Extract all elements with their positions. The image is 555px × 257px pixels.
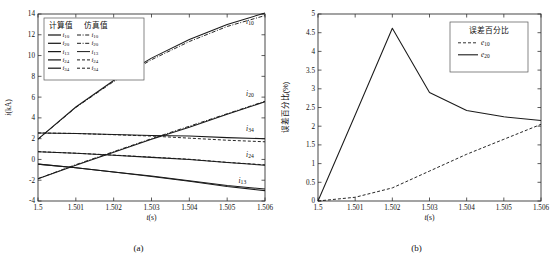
svg-text:1.505: 1.505	[496, 204, 513, 212]
svg-text:6: 6	[31, 94, 35, 102]
svg-text:5: 5	[311, 10, 315, 18]
svg-text:10: 10	[28, 52, 36, 60]
svg-text:0.5: 0.5	[306, 179, 315, 187]
svg-text:1.504: 1.504	[181, 204, 198, 212]
svg-text:1.506: 1.506	[257, 204, 274, 212]
svg-text:i13: i13	[239, 176, 247, 185]
svg-text:3: 3	[311, 85, 315, 93]
svg-text:-4: -4	[29, 197, 35, 205]
svg-text:1.502: 1.502	[106, 204, 123, 212]
panel-b-caption: (b)	[278, 243, 555, 253]
svg-text:-2: -2	[29, 177, 35, 185]
svg-text:4: 4	[311, 48, 315, 56]
chart-b-legend: 误差百分比e10e20	[450, 22, 528, 72]
svg-text:i(kA): i(kA)	[4, 99, 13, 116]
svg-text:i34: i34	[246, 124, 254, 133]
svg-text:2: 2	[31, 135, 35, 143]
svg-text:1.5: 1.5	[306, 141, 315, 149]
svg-text:1.501: 1.501	[68, 204, 85, 212]
svg-text:4: 4	[31, 114, 35, 122]
svg-text:e20: e20	[481, 51, 490, 59]
svg-text:4.5: 4.5	[306, 29, 315, 37]
svg-text:1.501: 1.501	[347, 204, 364, 212]
chart-b-plot: 1.51.5011.5021.5031.5041.5051.50600.511.…	[278, 0, 555, 235]
svg-text:8: 8	[31, 73, 35, 81]
svg-text:仿真值: 仿真值	[84, 20, 108, 30]
svg-text:1: 1	[311, 160, 315, 168]
svg-text:t(s): t(s)	[146, 213, 157, 222]
panel-a: 1.51.5011.5021.5031.5041.5051.506-4-2024…	[0, 0, 277, 257]
svg-text:1.506: 1.506	[533, 204, 550, 212]
svg-text:1.503: 1.503	[421, 204, 438, 212]
svg-text:2: 2	[311, 123, 315, 131]
figure-container: 1.51.5011.5021.5031.5041.5051.506-4-2024…	[0, 0, 555, 257]
svg-text:计算值: 计算值	[49, 20, 73, 30]
svg-text:i20: i20	[246, 89, 254, 98]
svg-text:12: 12	[28, 31, 36, 39]
svg-text:t(s): t(s)	[424, 213, 435, 222]
svg-text:e10: e10	[481, 39, 490, 47]
svg-text:误差百分比(%): 误差百分比(%)	[280, 81, 290, 133]
series-i13_sim	[38, 164, 265, 189]
svg-text:0: 0	[31, 156, 35, 164]
chart-a-legend: 计算值仿真值i10i10i20i20i13i13i24i24i34i34	[44, 18, 144, 80]
series-i24_calc	[38, 152, 265, 166]
series-i13_calc	[38, 164, 265, 190]
chart-a-plot: 1.51.5011.5021.5031.5041.5051.506-4-2024…	[0, 0, 277, 235]
svg-text:1.505: 1.505	[219, 204, 236, 212]
svg-text:误差百分比: 误差百分比	[469, 25, 509, 35]
svg-text:0: 0	[311, 197, 315, 205]
svg-text:1.502: 1.502	[384, 204, 401, 212]
svg-text:14: 14	[28, 10, 36, 18]
svg-text:i24: i24	[246, 150, 254, 159]
svg-text:1.503: 1.503	[143, 204, 160, 212]
svg-text:1.504: 1.504	[459, 204, 476, 212]
series-i34_calc	[38, 133, 265, 139]
panel-b: 1.51.5011.5021.5031.5041.5051.50600.511.…	[278, 0, 555, 257]
svg-text:2.5: 2.5	[306, 104, 315, 112]
series-e10	[318, 124, 541, 201]
panel-a-caption: (a)	[0, 243, 277, 253]
svg-text:3.5: 3.5	[306, 67, 315, 75]
